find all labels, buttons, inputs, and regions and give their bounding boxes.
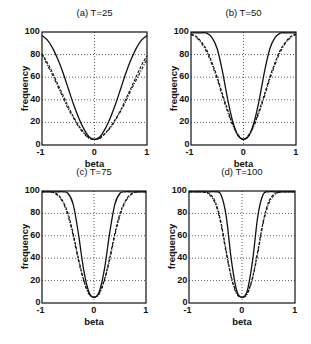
subplot-title: (d) T=100 bbox=[221, 166, 262, 177]
x-tick-label: -1 bbox=[183, 306, 191, 315]
axes-frame bbox=[189, 191, 295, 303]
x-tick-label: 1 bbox=[293, 148, 298, 157]
y-axis-label: frequency bbox=[168, 58, 179, 118]
y-tick-label: 40 bbox=[30, 95, 40, 104]
x-tick-label: 0 bbox=[91, 306, 96, 315]
x-tick-label: 0 bbox=[239, 306, 244, 315]
y-tick-label: 80 bbox=[177, 208, 187, 217]
y-tick-label: 20 bbox=[179, 117, 189, 126]
subplot-title: (b) T=50 bbox=[226, 7, 262, 18]
x-tick-label: -1 bbox=[185, 148, 193, 157]
y-tick-label: 20 bbox=[30, 117, 40, 126]
y-tick-label: 60 bbox=[179, 72, 189, 81]
x-tick-label: -1 bbox=[36, 148, 44, 157]
subplot-title: (c) T=75 bbox=[76, 166, 111, 177]
x-tick-label: -1 bbox=[36, 306, 44, 315]
y-tick-label: 20 bbox=[30, 276, 40, 285]
y-tick-label: 40 bbox=[30, 253, 40, 262]
x-axis-label: beta bbox=[232, 316, 252, 327]
series-line-dashed bbox=[42, 53, 147, 139]
series-line-dashdot bbox=[42, 55, 147, 140]
plot-area bbox=[42, 32, 147, 145]
y-tick-label: 80 bbox=[30, 208, 40, 217]
y-tick-label: 80 bbox=[179, 50, 189, 59]
y-axis-label: frequency bbox=[166, 217, 177, 277]
y-tick-label: 60 bbox=[177, 231, 187, 240]
x-tick-label: 0 bbox=[92, 148, 97, 157]
y-axis-label: frequency bbox=[19, 217, 30, 277]
y-axis-label: frequency bbox=[19, 58, 30, 118]
y-tick-label: 40 bbox=[179, 95, 189, 104]
x-axis-label: beta bbox=[84, 316, 104, 327]
plot-area bbox=[191, 32, 296, 145]
y-tick-label: 20 bbox=[177, 276, 187, 285]
plot-area bbox=[42, 191, 146, 303]
plot-area bbox=[189, 191, 295, 303]
y-tick-label: 100 bbox=[25, 27, 40, 36]
x-tick-label: 0 bbox=[241, 148, 246, 157]
x-tick-label: 1 bbox=[143, 306, 148, 315]
subplot-title: (a) T=25 bbox=[77, 7, 113, 18]
y-tick-label: 60 bbox=[30, 231, 40, 240]
y-tick-label: 40 bbox=[177, 253, 187, 262]
x-tick-label: 1 bbox=[292, 306, 297, 315]
y-tick-label: 80 bbox=[30, 50, 40, 59]
y-tick-label: 60 bbox=[30, 72, 40, 81]
y-tick-label: 100 bbox=[174, 27, 189, 36]
x-tick-label: 1 bbox=[144, 148, 149, 157]
axes-frame bbox=[42, 191, 146, 303]
y-tick-label: 100 bbox=[172, 186, 187, 195]
y-tick-label: 100 bbox=[25, 186, 40, 195]
